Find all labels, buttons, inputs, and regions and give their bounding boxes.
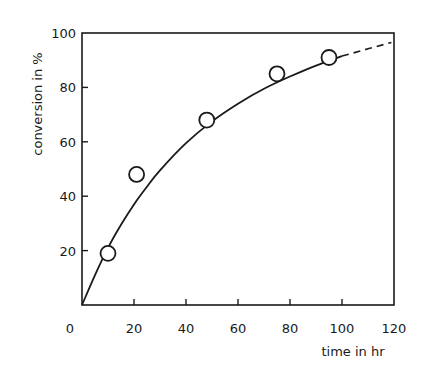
y-tick-label: 20 (59, 244, 76, 259)
data-point-marker (322, 50, 337, 65)
data-points (101, 50, 337, 261)
y-tick-label: 100 (51, 26, 76, 41)
y-tick-label: 80 (59, 80, 76, 95)
chart-canvas: 20406080100 020406080100120 conversion i… (0, 0, 429, 370)
plot-border (82, 33, 394, 305)
x-tick-label: 100 (330, 321, 355, 336)
fitted-curve-line (82, 56, 342, 305)
x-axis-title: time in hr (321, 344, 385, 359)
plot-frame (82, 33, 394, 305)
x-tick-label: 0 (66, 321, 74, 336)
data-point-marker (129, 167, 144, 182)
x-tick-label: 120 (382, 321, 407, 336)
x-tick-label: 60 (230, 321, 247, 336)
y-axis-ticks (82, 87, 88, 250)
x-axis-ticks (134, 299, 342, 305)
y-axis-tick-labels: 20406080100 (51, 26, 76, 259)
data-point-marker (101, 246, 116, 261)
data-point-marker (270, 66, 285, 81)
x-tick-label: 20 (126, 321, 143, 336)
x-axis-tick-labels: 020406080100120 (66, 321, 407, 336)
x-tick-label: 40 (178, 321, 195, 336)
y-tick-label: 40 (59, 189, 76, 204)
y-tick-label: 60 (59, 135, 76, 150)
data-point-marker (199, 113, 214, 128)
x-tick-label: 80 (282, 321, 299, 336)
extrapolation-dashed-line (342, 43, 391, 57)
y-axis-title: conversion in % (30, 52, 45, 155)
